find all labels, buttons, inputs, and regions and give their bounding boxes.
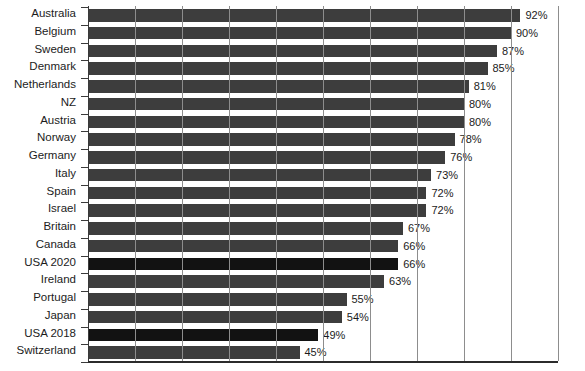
gridline — [464, 6, 465, 361]
category-label: Israel — [48, 200, 76, 216]
bar — [88, 293, 347, 306]
bar — [88, 187, 426, 200]
axis-tick — [81, 202, 88, 203]
category-label: USA 2020 — [24, 254, 76, 270]
bar-chart: AustraliaBelgiumSwedenDenmarkNetherlands… — [0, 0, 585, 371]
bar-value-label: 78% — [455, 131, 482, 147]
category-label: Switzerland — [17, 342, 76, 358]
bar — [88, 9, 520, 22]
bar — [88, 80, 469, 93]
gridline — [558, 6, 559, 361]
gridline — [417, 6, 418, 361]
axis-tick — [81, 78, 88, 79]
category-label: Canada — [36, 236, 76, 252]
axis-tick — [81, 273, 88, 274]
gridline — [276, 6, 277, 361]
axis-tick — [81, 167, 88, 168]
axis-tick — [81, 96, 88, 97]
plot-area: 92%90%87%85%81%80%80%78%76%73%72%72%67%6… — [88, 6, 558, 361]
bar-value-label: 73% — [431, 167, 458, 183]
bar-value-label: 80% — [464, 114, 491, 130]
gridline — [182, 6, 183, 361]
bar — [88, 275, 384, 288]
bar-value-label: 72% — [426, 185, 453, 201]
category-label: Germany — [29, 147, 76, 163]
bar-value-label: 81% — [469, 78, 496, 94]
bar-value-label: 76% — [445, 149, 472, 165]
axis-tick — [81, 344, 88, 345]
category-label: USA 2018 — [24, 325, 76, 341]
axis-tick — [81, 7, 88, 8]
category-label: Netherlands — [14, 76, 76, 92]
category-label: Italy — [55, 165, 76, 181]
bar — [88, 62, 488, 75]
category-label: Ireland — [41, 271, 76, 287]
axis-tick — [81, 238, 88, 239]
category-label: Sweden — [34, 41, 76, 57]
category-label: Japan — [45, 307, 76, 323]
bar — [88, 169, 431, 182]
bar — [88, 45, 497, 58]
axis-tick — [81, 327, 88, 328]
axis-tick — [81, 25, 88, 26]
bar-value-label: 66% — [398, 256, 425, 272]
bar — [88, 151, 445, 164]
axis-tick — [81, 131, 88, 132]
bar — [88, 204, 426, 217]
axis-tick — [81, 220, 88, 221]
bar-value-label: 66% — [398, 238, 425, 254]
chart-caption — [150, 365, 450, 371]
bar — [88, 329, 318, 342]
category-label: Austria — [40, 112, 76, 128]
bar-value-label: 92% — [520, 7, 547, 23]
category-axis: AustraliaBelgiumSwedenDenmarkNetherlands… — [0, 6, 88, 361]
axis-tick — [81, 256, 88, 257]
bar — [88, 133, 455, 146]
bar-value-label: 80% — [464, 96, 491, 112]
category-label: Norway — [37, 129, 76, 145]
category-label: Denmark — [29, 58, 76, 74]
axis-tick — [81, 362, 88, 363]
axis-tick — [81, 149, 88, 150]
category-label: Spain — [47, 183, 76, 199]
category-label: Australia — [31, 5, 76, 21]
bar-value-label: 90% — [511, 25, 538, 41]
axis-bottom-line — [88, 361, 558, 363]
gridline — [511, 6, 512, 361]
gridline — [229, 6, 230, 361]
bar-value-label: 72% — [426, 202, 453, 218]
gridline — [135, 6, 136, 361]
category-label: Belgium — [34, 23, 76, 39]
axis-tick — [81, 60, 88, 61]
axis-tick — [81, 309, 88, 310]
axis-tick — [81, 43, 88, 44]
category-label: Portugal — [33, 289, 76, 305]
bar-value-label: 63% — [384, 273, 411, 289]
bar — [88, 346, 300, 359]
bar — [88, 311, 342, 324]
axis-tick — [81, 114, 88, 115]
axis-tick — [81, 185, 88, 186]
bar — [88, 27, 511, 40]
gridline — [370, 6, 371, 361]
category-label: NZ — [61, 94, 76, 110]
axis-tick — [81, 291, 88, 292]
gridline — [323, 6, 324, 361]
category-label: Britain — [43, 218, 76, 234]
axis-left-spine — [88, 6, 89, 362]
bar-value-label: 54% — [342, 309, 369, 325]
